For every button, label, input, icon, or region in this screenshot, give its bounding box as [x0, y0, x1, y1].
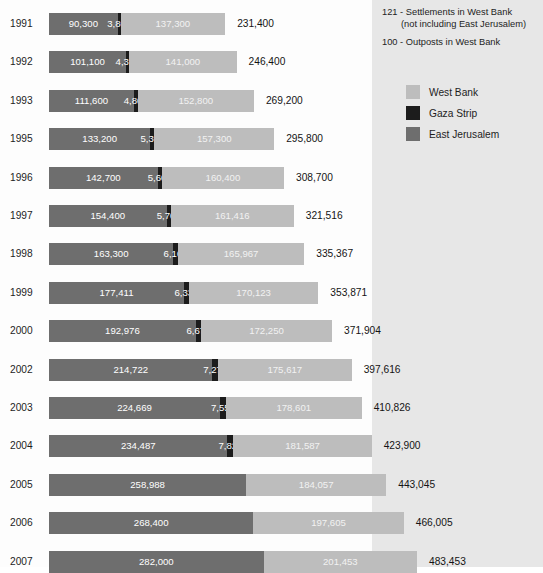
stacked-bar[interactable]: 111,6004,800152,800: [49, 90, 254, 112]
row-total-label: 423,900: [384, 435, 421, 457]
segment-west-bank-value: 201,453: [264, 551, 417, 573]
bar-row: 1995133,2005,300157,300295,800: [0, 128, 543, 150]
segment-west-bank-value: 178,601: [226, 397, 362, 419]
stacked-bar[interactable]: 163,3006,100165,967: [49, 243, 304, 265]
segment-west-bank-value: 161,416: [171, 205, 294, 227]
bar-row: 2005258,988184,057443,045: [0, 474, 543, 496]
segment-west-bank-value: 152,800: [138, 90, 254, 112]
segment-west-bank[interactable]: 175,617: [218, 359, 352, 381]
segment-east-jerusalem-value: 268,400: [49, 512, 253, 534]
row-total-label: 443,045: [398, 474, 435, 496]
segment-west-bank[interactable]: 172,250: [201, 320, 332, 342]
bar-row: 2004234,4877,826181,587423,900: [0, 435, 543, 457]
stacked-bar[interactable]: 133,2005,300157,300: [49, 128, 274, 150]
row-total-label: 410,826: [374, 397, 411, 419]
bar-row: 2003224,6697,556178,601410,826: [0, 397, 543, 419]
segment-west-bank-value: 175,617: [218, 359, 352, 381]
stacked-bar[interactable]: 282,000201,453: [49, 551, 417, 573]
year-label: 2002: [10, 359, 44, 381]
row-total-label: 353,871: [330, 282, 367, 304]
bar-row: 1993111,6004,800152,800269,200: [0, 90, 543, 112]
segment-west-bank[interactable]: 201,453: [264, 551, 417, 573]
segment-east-jerusalem-value: 258,988: [49, 474, 246, 496]
bar-row: 1999177,4116,337170,123353,871: [0, 282, 543, 304]
segment-west-bank-value: 141,000: [129, 51, 236, 73]
row-total-label: 335,367: [316, 243, 353, 265]
stacked-bar[interactable]: 154,4005,700161,416: [49, 205, 294, 227]
row-total-label: 321,516: [306, 205, 343, 227]
year-label: 1991: [10, 13, 44, 35]
segment-west-bank-value: 181,587: [233, 435, 371, 457]
stacked-bar[interactable]: 177,4116,337170,123: [49, 282, 318, 304]
stacked-bar[interactable]: 268,400197,605: [49, 512, 404, 534]
segment-east-jerusalem[interactable]: 268,400: [49, 512, 253, 534]
segment-west-bank[interactable]: 152,800: [138, 90, 254, 112]
segment-west-bank[interactable]: 165,967: [178, 243, 304, 265]
segment-west-bank[interactable]: 137,300: [121, 13, 226, 35]
segment-west-bank[interactable]: 141,000: [129, 51, 236, 73]
row-total-label: 246,400: [249, 51, 286, 73]
segment-west-bank[interactable]: 161,416: [171, 205, 294, 227]
year-label: 2007: [10, 551, 44, 573]
segment-west-bank-value: 157,300: [154, 128, 274, 150]
row-total-label: 295,800: [286, 128, 323, 150]
row-total-label: 371,904: [344, 320, 381, 342]
row-total-label: 397,616: [364, 359, 401, 381]
segment-west-bank-value: 160,400: [162, 167, 284, 189]
segment-west-bank[interactable]: 157,300: [154, 128, 274, 150]
segment-west-bank[interactable]: 184,057: [246, 474, 386, 496]
stacked-bar[interactable]: 224,6697,556178,601: [49, 397, 362, 419]
bar-row: 2006268,400197,605466,005: [0, 512, 543, 534]
segment-west-bank[interactable]: 181,587: [233, 435, 371, 457]
year-label: 1996: [10, 167, 44, 189]
segment-west-bank-value: 197,605: [253, 512, 403, 534]
year-label: 2006: [10, 512, 44, 534]
stacked-bar[interactable]: 90,3003,800137,300: [49, 13, 225, 35]
year-label: 1997: [10, 205, 44, 227]
year-label: 1999: [10, 282, 44, 304]
segment-west-bank-value: 170,123: [189, 282, 318, 304]
segment-east-jerusalem[interactable]: 258,988: [49, 474, 246, 496]
year-label: 2004: [10, 435, 44, 457]
bar-row: 1996142,7005,600160,400308,700: [0, 167, 543, 189]
year-label: 2000: [10, 320, 44, 342]
segment-west-bank[interactable]: 170,123: [189, 282, 318, 304]
bar-row: 1997154,4005,700161,416321,516: [0, 205, 543, 227]
segment-west-bank[interactable]: 178,601: [226, 397, 362, 419]
segment-west-bank[interactable]: 160,400: [162, 167, 284, 189]
row-total-label: 231,400: [237, 13, 274, 35]
segment-west-bank-value: 165,967: [178, 243, 304, 265]
stacked-bar[interactable]: 192,9766,678172,250: [49, 320, 332, 342]
row-total-label: 466,005: [416, 512, 453, 534]
stacked-bar[interactable]: 101,1004,300141,000: [49, 51, 237, 73]
year-label: 1993: [10, 90, 44, 112]
year-label: 2005: [10, 474, 44, 496]
year-label: 2003: [10, 397, 44, 419]
row-total-label: 269,200: [266, 90, 303, 112]
year-label: 1998: [10, 243, 44, 265]
segment-west-bank-value: 137,300: [121, 13, 226, 35]
year-label: 1995: [10, 128, 44, 150]
stacked-bar[interactable]: 142,7005,600160,400: [49, 167, 284, 189]
bar-row: 2007282,000201,453483,453: [0, 551, 543, 573]
bar-row: 1992101,1004,300141,000246,400: [0, 51, 543, 73]
segment-east-jerusalem-value: 282,000: [49, 551, 264, 573]
row-total-label: 308,700: [296, 167, 333, 189]
segment-east-jerusalem[interactable]: 282,000: [49, 551, 264, 573]
segment-west-bank[interactable]: 197,605: [253, 512, 403, 534]
bar-row: 199190,3003,800137,300231,400: [0, 13, 543, 35]
stacked-bar[interactable]: 258,988184,057: [49, 474, 386, 496]
segment-west-bank-value: 172,250: [201, 320, 332, 342]
year-label: 1992: [10, 51, 44, 73]
row-total-label: 483,453: [429, 551, 466, 573]
bar-row: 2000192,9766,678172,250371,904: [0, 320, 543, 342]
segment-west-bank-value: 184,057: [246, 474, 386, 496]
stacked-bar[interactable]: 234,4877,826181,587: [49, 435, 372, 457]
bar-row: 2002214,7227,277175,617397,616: [0, 359, 543, 381]
bar-row: 1998163,3006,100165,967335,367: [0, 243, 543, 265]
stacked-bar[interactable]: 214,7227,277175,617: [49, 359, 352, 381]
